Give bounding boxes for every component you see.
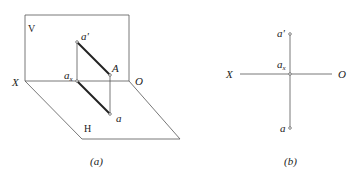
figure-a: V H X O a' A ax a (a) [11, 15, 180, 168]
point-A [109, 74, 112, 77]
x-axis-label-a: X [11, 76, 20, 88]
A-label: A [111, 62, 119, 74]
v-plane-label: V [28, 23, 36, 34]
a-prime-label-a: a' [81, 30, 90, 42]
origin-label-b: O [338, 68, 346, 80]
figure-b: X O a' ax a (b) [225, 27, 346, 168]
projection-line-v [77, 42, 110, 75]
h-plane-label: H [84, 123, 91, 134]
h-plane [25, 81, 180, 139]
point-a-prime-b [289, 33, 292, 36]
x-axis-label-b: X [225, 68, 234, 80]
caption-b: (b) [284, 155, 297, 168]
projection-line-h [77, 81, 110, 114]
projection-diagram: V H X O a' A ax a (a) X O a' ax a (b) [0, 0, 357, 181]
point-ax-b [289, 73, 292, 76]
point-a-prime [76, 41, 79, 44]
point-a [109, 113, 112, 116]
caption-a: (a) [90, 155, 103, 168]
ax-label-b: ax [277, 58, 287, 72]
ax-label-a: ax [64, 69, 74, 83]
point-a-b [289, 127, 292, 130]
origin-label-a: O [135, 75, 143, 87]
point-ax [76, 80, 79, 83]
a-label-a: a [116, 112, 122, 124]
a-prime-label-b: a' [277, 27, 286, 39]
a-label-b: a [280, 122, 286, 134]
